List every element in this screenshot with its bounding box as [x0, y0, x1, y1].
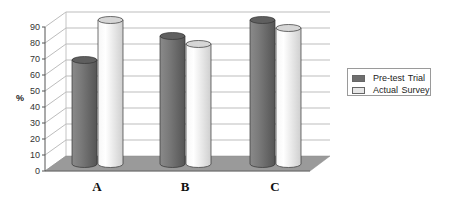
y-axis: 0102030405060708090: [30, 22, 45, 176]
y-tick-label: 90: [30, 22, 40, 32]
legend: Pre-test Trial Actual Survey: [347, 68, 431, 96]
y-tick-label: 50: [30, 86, 40, 96]
legend-item-actual-survey: Actual Survey: [352, 85, 430, 95]
y-tick-label: 70: [30, 54, 40, 64]
y-tick-label: 10: [30, 150, 40, 160]
bar-b-actual-survey: [186, 41, 211, 168]
x-axis-labels: ABC: [92, 179, 279, 194]
bars: [72, 17, 301, 168]
bar-a-actual-survey: [98, 17, 123, 168]
y-tick-label: 0: [35, 166, 40, 176]
y-axis-label: %: [16, 93, 24, 103]
y-tick-label: 30: [30, 118, 40, 128]
legend-item-pre-test-trial: Pre-test Trial: [352, 73, 425, 83]
y-tick-label: 60: [30, 70, 40, 80]
y-tick-label: 80: [30, 38, 40, 48]
bar-c-pre-test-trial: [250, 17, 275, 168]
bar-a-pre-test-trial: [72, 57, 97, 168]
y-tick-label: 40: [30, 102, 40, 112]
legend-label: Actual Survey: [373, 85, 430, 95]
bar-b-pre-test-trial: [160, 33, 185, 168]
x-category-label: B: [181, 179, 190, 194]
legend-swatch-actual-survey: [352, 87, 365, 94]
x-category-label: C: [270, 179, 279, 194]
legend-label: Pre-test Trial: [373, 73, 425, 83]
legend-swatch-pre-test-trial: [352, 75, 365, 82]
bar-c-actual-survey: [276, 25, 301, 168]
bar-chart: 0102030405060708090 ABC %: [0, 0, 454, 201]
y-tick-label: 20: [30, 134, 40, 144]
x-category-label: A: [92, 179, 102, 194]
